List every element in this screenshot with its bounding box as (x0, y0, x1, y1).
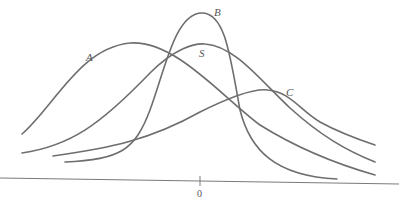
zero-tick-label: 0 (197, 188, 202, 199)
label-c: C (286, 86, 294, 98)
label-a: A (85, 51, 93, 63)
curve-c (53, 90, 375, 156)
distribution-diagram: 0 A S B C (0, 0, 399, 199)
label-s: S (199, 47, 205, 59)
curve-b (65, 13, 337, 179)
curve-a (22, 43, 375, 175)
curve-s (22, 44, 375, 162)
label-b: B (214, 6, 221, 18)
